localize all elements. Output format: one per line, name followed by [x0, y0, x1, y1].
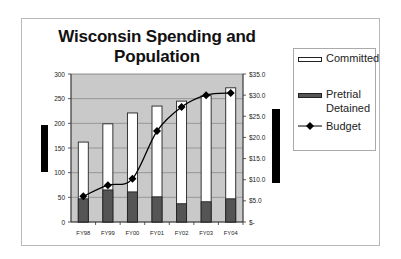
x-tick-label: FY01	[150, 230, 164, 236]
bar-pretrial	[103, 190, 113, 222]
y2-tick-label: $20.0	[249, 134, 266, 141]
y-tick-label: 100	[54, 169, 65, 176]
y-tick-label: 50	[58, 194, 66, 201]
y2-tick-label: $5.0	[249, 197, 262, 204]
y-tick-label: 250	[54, 95, 65, 102]
x-tick-label: FY04	[224, 230, 239, 236]
bar-pretrial	[78, 199, 88, 222]
y2-tick-label: $15.0	[249, 155, 266, 162]
x-tick-label: FY00	[125, 230, 139, 236]
legend-budget-marker-icon	[298, 121, 326, 131]
bar-pretrial	[127, 192, 137, 222]
legend-label-committed: Committed	[326, 52, 379, 65]
y2-tick-label: $35.0	[249, 71, 266, 78]
x-tick-label: FY98	[76, 230, 90, 236]
bar-pretrial	[152, 197, 162, 222]
legend-swatch-committed	[298, 57, 322, 62]
y-tick-label: 200	[54, 120, 65, 127]
x-tick-label: FY99	[101, 230, 115, 236]
x-tick-label: FY03	[199, 230, 213, 236]
y-tick-label: 0	[61, 219, 65, 226]
bar-pretrial	[201, 202, 211, 222]
legend-label-pretrial-1: Pretrial	[326, 88, 361, 101]
y-tick-label: 300	[54, 71, 65, 78]
y2-tick-label: $25.0	[249, 113, 266, 120]
bar-pretrial	[177, 204, 187, 222]
legend: Committed Pretrial Detained Budget	[293, 48, 376, 151]
y2-tick-label: $10.0	[249, 176, 266, 183]
right-axis-black-bar	[272, 109, 280, 183]
legend-label-pretrial-2: Detained	[326, 102, 370, 115]
bar-pretrial	[226, 199, 236, 222]
y-tick-label: 150	[54, 145, 65, 152]
legend-swatch-pretrial	[298, 93, 322, 98]
x-tick-label: FY02	[175, 230, 189, 236]
legend-label-budget: Budget	[326, 120, 361, 133]
y2-tick-label: $30.0	[249, 92, 266, 99]
left-axis-black-bar	[41, 125, 48, 172]
y2-tick-label: $-	[249, 219, 255, 226]
